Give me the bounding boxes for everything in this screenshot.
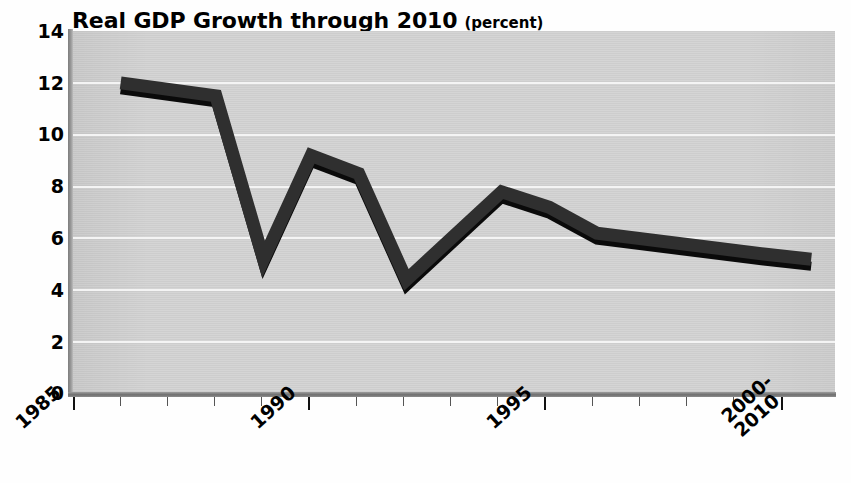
x-tick-1998 <box>686 397 687 406</box>
chart-title-row: Real GDP Growth through 2010 (percent) <box>72 8 543 33</box>
y-tick-label-2: 2 <box>12 333 64 352</box>
gdp-growth-figure: Real GDP Growth through 2010 (percent) 1… <box>0 0 851 483</box>
x-tick-1995 <box>544 397 546 410</box>
y-tick-label-6: 6 <box>12 229 64 248</box>
chart-units-label: (percent) <box>465 14 544 32</box>
series-line <box>121 83 812 280</box>
y-axis-spine <box>68 29 73 396</box>
x-tick-1997 <box>639 397 640 406</box>
x-tick-1985 <box>73 397 75 410</box>
x-tick-1991 <box>356 397 357 406</box>
x-tick-1987 <box>167 397 168 406</box>
x-tick-1988 <box>214 397 215 406</box>
x-tick-1996 <box>592 397 593 406</box>
x-tick-1992 <box>403 397 404 406</box>
page-title: Real GDP Growth through 2010 <box>72 8 458 33</box>
y-tick-label-14: 14 <box>12 22 64 41</box>
y-tick-label-4: 4 <box>12 281 64 300</box>
y-tick-label-10: 10 <box>12 125 64 144</box>
y-tick-label-12: 12 <box>12 74 64 93</box>
y-tick-label-8: 8 <box>12 177 64 196</box>
gdp-growth-line-series <box>73 31 835 394</box>
x-tick-1986 <box>120 397 121 406</box>
x-tick-1990 <box>308 397 310 410</box>
plot-area <box>73 31 835 394</box>
x-tick-1993 <box>450 397 451 406</box>
x-axis-spine <box>68 392 836 397</box>
